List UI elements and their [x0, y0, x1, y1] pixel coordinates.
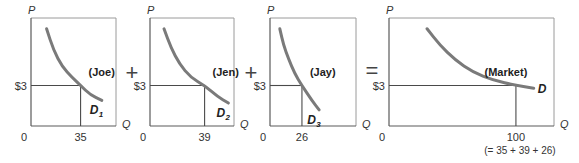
- panel-jay-quantity-tick-label: 26: [296, 131, 308, 143]
- panel-market-x-axis-label: Q: [560, 118, 569, 130]
- panel-jay-y-axis-label: P: [267, 4, 275, 16]
- panel-joe-quantity-tick-label: 35: [74, 131, 86, 143]
- panel-jay-demand-subscript: 3: [316, 120, 321, 129]
- panel-joe-demand-label: D: [90, 103, 99, 117]
- panel-joe-price-tick-label: $3: [15, 80, 27, 92]
- panel-jen-curve-label: (Jen): [213, 66, 240, 78]
- panel-jay-origin-label: 0: [260, 131, 266, 143]
- panel-joe-demand-subscript: 1: [99, 110, 104, 119]
- panel-jen-y-axis-label: P: [147, 4, 155, 16]
- panel-market-curve-label: (Market): [485, 66, 528, 78]
- panel-market-demand-curve: [427, 29, 534, 88]
- panel-jen-origin-label: 0: [140, 131, 146, 143]
- panel-jen-quantity-tick-label: 39: [198, 131, 210, 143]
- market-demand-figure: PQ0$335(Joe)D1PQ0$339(Jen)D2PQ0$326(Jay)…: [0, 0, 579, 163]
- panel-joe-x-axis-label: Q: [122, 118, 131, 130]
- panel-jay-curve-label: (Jay): [310, 66, 336, 78]
- panel-jay-demand-label: D: [307, 113, 316, 127]
- panel-jen-demand-subscript: 2: [224, 113, 230, 122]
- plus-sign: +: [245, 60, 258, 85]
- panel-joe-y-axis-label: P: [28, 4, 36, 16]
- panel-market-demand-label: D: [538, 82, 547, 96]
- panel-jay-x-axis-label: Q: [362, 118, 371, 130]
- panel-jen-x-axis-label: Q: [240, 118, 249, 130]
- plus-sign: +: [126, 60, 139, 85]
- panel-market-origin-label: 0: [379, 131, 385, 143]
- panel-joe-origin-label: 0: [21, 131, 27, 143]
- panel-jen-demand-label: D: [216, 106, 225, 120]
- panel-joe-curve-label: (Joe): [89, 66, 116, 78]
- panel-market-quantity-note: (= 35 + 39 + 26): [484, 145, 555, 156]
- equals-sign: =: [366, 58, 379, 83]
- panel-market-y-axis-label: P: [386, 4, 394, 16]
- panel-market-quantity-tick-label: 100: [507, 131, 525, 143]
